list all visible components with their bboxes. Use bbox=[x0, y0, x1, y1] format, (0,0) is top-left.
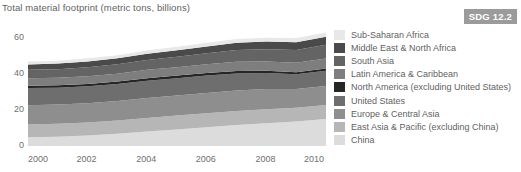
legend-swatch-icon bbox=[334, 56, 345, 66]
y-axis-tick-label: 40 bbox=[0, 68, 24, 78]
legend-swatch-icon bbox=[334, 43, 345, 53]
legend-swatch-icon bbox=[334, 122, 345, 132]
legend-item-label: Middle East & North Africa bbox=[351, 43, 456, 53]
y-axis-tick-label: 20 bbox=[0, 104, 24, 114]
x-axis-tick-label: 2004 bbox=[136, 154, 156, 164]
legend-item[interactable]: North America (excluding United States) bbox=[334, 81, 521, 94]
y-axis-tick-label: 0 bbox=[0, 140, 24, 150]
chart-legend: Sub-Saharan AfricaMiddle East & North Af… bbox=[334, 28, 521, 147]
page-title: Total material footprint (metric tons, b… bbox=[2, 2, 190, 13]
legend-item[interactable]: Latin America & Caribbean bbox=[334, 68, 521, 81]
legend-item[interactable]: Europe & Central Asia bbox=[334, 107, 521, 120]
legend-item-label: China bbox=[351, 135, 375, 145]
legend-swatch-icon bbox=[334, 109, 345, 119]
x-axis-tick-label: 2010 bbox=[304, 154, 324, 164]
x-axis-tick-label: 2000 bbox=[28, 154, 48, 164]
legend-item[interactable]: Middle East & North Africa bbox=[334, 41, 521, 54]
legend-item-label: United States bbox=[351, 96, 405, 106]
legend-swatch-icon bbox=[334, 96, 345, 106]
x-axis-tick-label: 2002 bbox=[77, 154, 97, 164]
status-badge: SDG 12.2 bbox=[464, 9, 517, 24]
legend-item-label: Europe & Central Asia bbox=[351, 109, 440, 119]
legend-item[interactable]: United States bbox=[334, 94, 521, 107]
legend-swatch-icon bbox=[334, 30, 345, 40]
legend-item-label: East Asia & Pacific (excluding China) bbox=[351, 122, 499, 132]
y-axis-tick-label: 60 bbox=[0, 32, 24, 42]
x-axis-tick-label: 2008 bbox=[255, 154, 275, 164]
legend-item-label: Sub-Saharan Africa bbox=[351, 30, 429, 40]
legend-item-label: South Asia bbox=[351, 56, 394, 66]
legend-item[interactable]: East Asia & Pacific (excluding China) bbox=[334, 120, 521, 133]
legend-item[interactable]: South Asia bbox=[334, 54, 521, 67]
stacked-area-svg bbox=[28, 24, 326, 150]
legend-swatch-icon bbox=[334, 69, 345, 79]
legend-item[interactable]: China bbox=[334, 134, 521, 147]
legend-item-label: North America (excluding United States) bbox=[351, 82, 511, 92]
legend-swatch-icon bbox=[334, 82, 345, 92]
legend-item[interactable]: Sub-Saharan Africa bbox=[334, 28, 521, 41]
legend-swatch-icon bbox=[334, 135, 345, 145]
x-axis-tick-label: 2006 bbox=[196, 154, 216, 164]
legend-item-label: Latin America & Caribbean bbox=[351, 69, 458, 79]
